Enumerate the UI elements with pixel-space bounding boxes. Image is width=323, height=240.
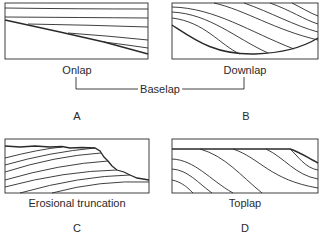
downlap-label: Downlap [224, 64, 267, 76]
onlap-label: Onlap [62, 64, 91, 76]
erosional-truncation-label: Erosional truncation [28, 197, 125, 209]
panel-d-toplap [172, 139, 318, 193]
panel-letter-d: D [241, 222, 249, 234]
toplap-label: Toplap [229, 197, 261, 209]
panel-letter-c: C [73, 222, 81, 234]
baselap-label: Baselap [138, 83, 182, 95]
panel-a-onlap [5, 3, 148, 59]
panel-letter-a: A [73, 110, 80, 122]
panel-c-erosional-truncation [5, 139, 149, 193]
panel-b-downlap [172, 3, 318, 59]
panel-letter-b: B [242, 110, 249, 122]
